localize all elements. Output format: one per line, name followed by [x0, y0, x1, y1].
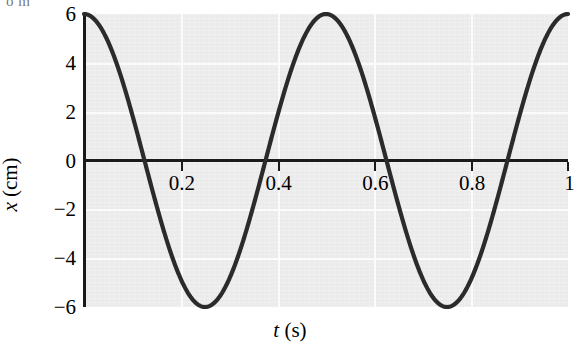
- curve-svg: [0, 0, 580, 354]
- oscillation-graph-figure: 0.2 0.4 0.6 0.8 1 6 4 2 0 −2 −4 −6 x (cm…: [0, 0, 580, 354]
- oscillation-curve: [84, 14, 568, 307]
